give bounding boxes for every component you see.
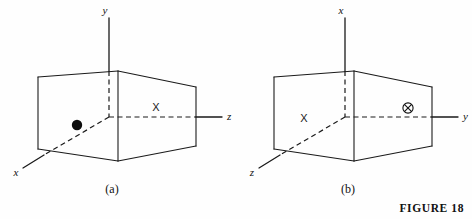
- axis-b-depth-solid: [259, 155, 280, 168]
- axis-label-b-depth: z: [249, 166, 255, 178]
- axis-label-a-horizontal: z: [226, 110, 232, 122]
- cube-b-top-back-left-edge: [274, 71, 354, 77]
- cube-a-bottom-left-edge: [38, 149, 118, 161]
- axis-b-depth-hidden: [280, 117, 345, 155]
- panel-a-caption: (a): [105, 182, 118, 196]
- panel-b-caption: (b): [341, 182, 355, 196]
- axis-a-depth-solid: [23, 155, 44, 168]
- filled-dot-marker-a: [72, 120, 82, 130]
- cube-a-top-back-left-edge: [38, 71, 118, 77]
- figure-number-caption: FIGURE 18: [399, 202, 464, 214]
- panel-b: x y z X (b): [236, 0, 472, 200]
- axis-label-a-depth: x: [13, 166, 19, 178]
- axis-label-b-vertical: x: [338, 4, 344, 16]
- cube-a-top-right-edge: [118, 71, 196, 87]
- cube-b-bottom-right-edge: [354, 146, 432, 161]
- cube-b-top-right-edge: [354, 71, 432, 87]
- cube-b-bottom-left-edge: [274, 149, 354, 161]
- panel-a: y z x X (a): [0, 0, 236, 200]
- figure-container: y z x X (a) x y z X: [0, 0, 472, 219]
- circled-plus-marker-b: [403, 103, 413, 113]
- axis-label-b-horizontal: y: [462, 110, 468, 122]
- cube-a-bottom-right-edge: [118, 146, 196, 161]
- x-marker-b: X: [300, 112, 308, 124]
- x-marker-a: X: [152, 101, 160, 113]
- axis-label-a-vertical: y: [102, 4, 108, 16]
